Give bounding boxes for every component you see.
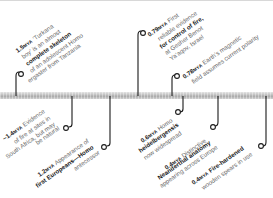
connector-fire-evidence-africa xyxy=(64,96,72,130)
marker-circle-icon xyxy=(176,110,181,115)
connector-magnetic-field xyxy=(172,74,179,96)
connector-wooden-spears xyxy=(259,96,266,148)
marker-circle-icon xyxy=(175,74,180,79)
connector-neanderthal-anatomy xyxy=(211,96,218,129)
marker-circle-icon xyxy=(259,144,264,149)
marker-circle-icon xyxy=(211,125,216,130)
connector-turkana-boy xyxy=(16,72,23,96)
connector-control-of-fire xyxy=(138,31,145,96)
marker-circle-icon xyxy=(64,126,69,131)
marker-circle-icon xyxy=(19,72,24,77)
timeline-diagram: 1.5MYA ‘Turkana boy’ is an almost comple… xyxy=(0,0,273,198)
connector-homo-heidelbergensis xyxy=(176,96,183,114)
connector-first-europeans xyxy=(102,96,110,149)
marker-circle-icon xyxy=(102,145,107,150)
